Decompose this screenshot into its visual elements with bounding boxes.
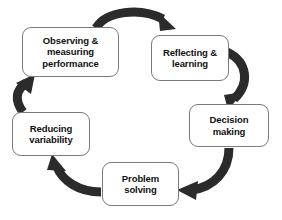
cycle-node-reflecting[interactable]: Reflecting & learning <box>151 35 229 81</box>
cycle-diagram: Observing & measuring performance Reflec… <box>0 0 282 220</box>
arrow-problem-to-reducing-icon <box>47 154 101 192</box>
arrow-reducing-to-observing-icon <box>16 74 35 112</box>
cycle-node-problem-label: Problem solving <box>122 173 159 196</box>
cycle-node-decision[interactable]: Decision making <box>189 104 269 147</box>
arrow-decision-to-problem-icon <box>177 148 229 200</box>
cycle-node-observing[interactable]: Observing & measuring performance <box>22 27 119 77</box>
cycle-node-problem[interactable]: Problem solving <box>102 162 179 206</box>
cycle-node-reducing[interactable]: Reducing variability <box>12 112 90 156</box>
cycle-node-reducing-label: Reducing variability <box>29 123 72 146</box>
cycle-node-observing-label: Observing & measuring performance <box>42 35 98 70</box>
cycle-node-decision-label: Decision making <box>210 114 249 137</box>
cycle-node-reflecting-label: Reflecting & learning <box>163 47 217 70</box>
